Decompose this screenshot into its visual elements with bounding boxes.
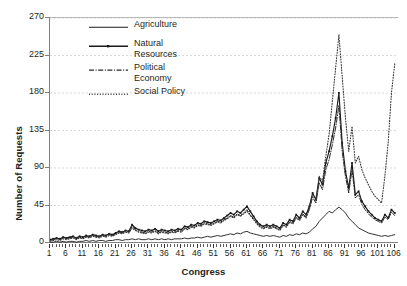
x-axis-tickmark bbox=[292, 244, 293, 247]
x-axis-tickmark bbox=[381, 244, 382, 247]
series-marker bbox=[249, 210, 251, 212]
legend-swatch-icon bbox=[88, 38, 130, 54]
x-axis-tickmark bbox=[187, 244, 188, 247]
x-axis-tickmark bbox=[272, 244, 273, 247]
series-marker bbox=[295, 214, 297, 216]
series-marker bbox=[184, 225, 186, 227]
series-line-natural-resources bbox=[50, 93, 395, 240]
series-marker bbox=[203, 220, 205, 222]
series-marker bbox=[351, 162, 353, 164]
series-marker bbox=[154, 228, 156, 230]
x-axis-tickmark bbox=[354, 244, 355, 247]
x-axis-tickmark bbox=[52, 244, 53, 247]
x-axis-tickmark bbox=[269, 244, 270, 247]
series-marker bbox=[371, 214, 373, 216]
legend-label: Political Economy bbox=[130, 62, 172, 83]
series-marker bbox=[335, 117, 337, 119]
series-marker bbox=[210, 222, 212, 224]
legend-label: Agriculture bbox=[130, 19, 177, 30]
x-axis-tickmark bbox=[134, 244, 135, 247]
x-axis-tickmark bbox=[236, 244, 237, 247]
x-axis-tickmark bbox=[243, 244, 244, 247]
x-axis-tickmark bbox=[308, 244, 309, 247]
series-marker bbox=[174, 230, 176, 232]
series-marker bbox=[161, 229, 163, 231]
series-marker bbox=[217, 219, 219, 221]
x-axis-tickmark bbox=[92, 244, 93, 247]
x-axis-tick-label: 106 bbox=[382, 249, 406, 258]
x-axis-tickmark bbox=[56, 244, 57, 247]
x-axis-tickmark bbox=[170, 244, 171, 247]
x-axis-tickmark bbox=[331, 244, 332, 247]
x-axis-tickmark bbox=[305, 244, 306, 247]
legend-item-social-policy[interactable]: Social Policy bbox=[88, 86, 218, 102]
x-axis-tickmark bbox=[266, 244, 267, 247]
x-axis-tickmark bbox=[325, 244, 326, 247]
x-axis-tickmark bbox=[154, 244, 155, 247]
x-axis-tickmark bbox=[371, 244, 372, 247]
x-axis-tickmark bbox=[341, 244, 342, 247]
x-axis-tickmark bbox=[367, 244, 368, 247]
legend-swatch-icon bbox=[88, 62, 130, 78]
x-axis-tickmark bbox=[210, 244, 211, 247]
legend: AgricultureNatural ResourcesPolitical Ec… bbox=[88, 19, 218, 105]
legend-label: Natural Resources bbox=[130, 38, 177, 59]
y-axis-tick-label: 180 bbox=[0, 87, 44, 96]
series-marker bbox=[233, 214, 235, 216]
x-axis-label: Congress bbox=[0, 266, 407, 277]
x-axis-tickmark bbox=[200, 244, 201, 247]
series-marker bbox=[256, 220, 258, 222]
series-marker bbox=[377, 219, 379, 221]
series-marker bbox=[331, 135, 333, 137]
x-axis-tickmark bbox=[285, 244, 286, 247]
x-axis-tickmark bbox=[335, 244, 336, 247]
x-axis-tickmark bbox=[190, 244, 191, 247]
series-marker bbox=[226, 215, 228, 217]
x-axis-tickmark bbox=[111, 244, 112, 247]
series-marker bbox=[269, 225, 271, 227]
series-marker bbox=[312, 192, 314, 194]
x-axis-tickmark bbox=[75, 244, 76, 247]
x-axis-tickmark bbox=[203, 244, 204, 247]
x-axis-tickmark bbox=[216, 244, 217, 247]
legend-swatch-icon bbox=[88, 19, 130, 35]
series-marker bbox=[141, 230, 143, 232]
series-marker bbox=[197, 222, 199, 224]
x-axis-tickmark bbox=[276, 244, 277, 247]
x-axis-tickmark bbox=[72, 244, 73, 247]
series-marker bbox=[302, 210, 304, 212]
series-marker bbox=[177, 228, 179, 230]
x-axis-tickmark bbox=[374, 244, 375, 247]
series-marker bbox=[213, 220, 215, 222]
legend-item-agriculture[interactable]: Agriculture bbox=[88, 19, 218, 35]
x-axis-tickmark bbox=[233, 244, 234, 247]
x-axis-tickmark bbox=[282, 244, 283, 247]
x-axis-tickmark bbox=[364, 244, 365, 247]
x-axis-tickmark bbox=[105, 244, 106, 247]
series-marker bbox=[190, 224, 192, 226]
x-axis-tickmark bbox=[239, 244, 240, 247]
x-axis-tickmark bbox=[167, 244, 168, 247]
x-axis-tickmark bbox=[253, 244, 254, 247]
x-axis-tickmark bbox=[256, 244, 257, 247]
x-axis-tickmark bbox=[289, 244, 290, 247]
legend-item-natural-resources[interactable]: Natural Resources bbox=[88, 38, 218, 59]
legend-swatch-icon bbox=[88, 86, 130, 102]
x-axis-tickmark bbox=[226, 244, 227, 247]
series-line-political-economy bbox=[50, 106, 395, 241]
x-axis-tickmark bbox=[249, 244, 250, 247]
series-marker bbox=[276, 225, 278, 227]
series-marker bbox=[262, 225, 264, 227]
x-axis-tickmark bbox=[207, 244, 208, 247]
legend-item-political-economy[interactable]: Political Economy bbox=[88, 62, 218, 83]
x-axis-tickmark bbox=[174, 244, 175, 247]
x-axis-tickmark bbox=[102, 244, 103, 247]
x-axis-tickmark bbox=[177, 244, 178, 247]
series-marker bbox=[364, 205, 366, 207]
x-axis-tickmark bbox=[141, 244, 142, 247]
x-axis-tickmark bbox=[318, 244, 319, 247]
series-marker bbox=[167, 230, 169, 232]
x-axis-tickmark bbox=[161, 244, 162, 247]
series-marker bbox=[148, 229, 150, 231]
series-marker bbox=[144, 230, 146, 232]
